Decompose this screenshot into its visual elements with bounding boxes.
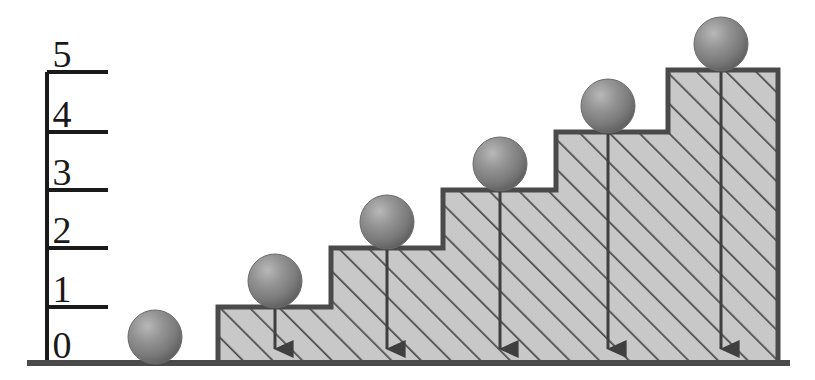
ball-level-1-body	[248, 254, 302, 308]
axis-tick-label-3: 3	[53, 151, 72, 193]
axis-tick-label-1: 1	[53, 268, 72, 310]
ball-level-4	[581, 79, 635, 133]
ball-level-5-body	[694, 17, 748, 71]
ball-level-3-body	[473, 137, 527, 191]
axis-tick-label-2: 2	[53, 209, 72, 251]
axis-group: 012345	[47, 33, 108, 366]
ball-level-0	[128, 310, 182, 364]
ball-level-0-body	[128, 310, 182, 364]
ball-level-2	[360, 195, 414, 249]
ball-level-5	[694, 17, 748, 71]
staircase-figure: 012345	[0, 0, 815, 380]
figure-canvas: 012345 Staircase of levels with spheres …	[0, 0, 815, 380]
axis-tick-label-5: 5	[53, 33, 72, 75]
axis-tick-label-4: 4	[53, 93, 72, 135]
ball-level-3	[473, 137, 527, 191]
staircase-body	[218, 70, 778, 363]
ball-level-1	[248, 254, 302, 308]
staircase-outline	[218, 70, 778, 363]
ball-level-2-body	[360, 195, 414, 249]
ball-level-4-body	[581, 79, 635, 133]
axis-tick-label-0: 0	[53, 324, 72, 366]
